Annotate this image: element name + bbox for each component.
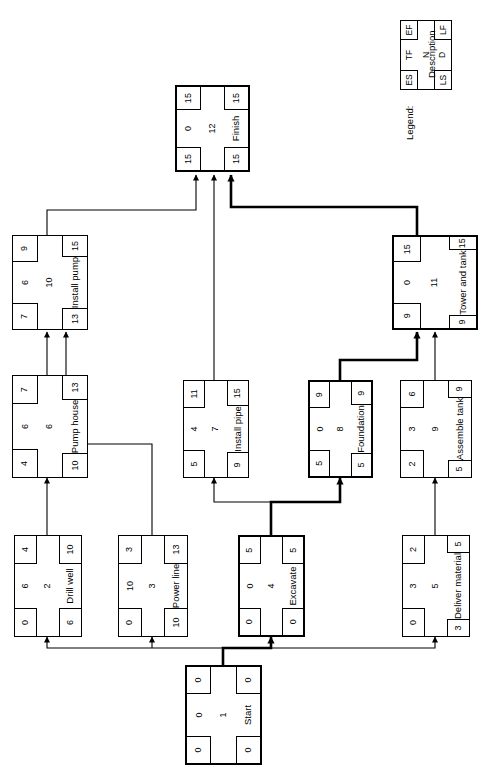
- foundation-label: Foundation: [351, 405, 371, 453]
- foundation-ls: 5: [351, 453, 371, 476]
- assemble-tank-es: 2: [401, 450, 424, 477]
- install-pipe-lf: 15: [227, 381, 248, 406]
- legend-es: ES: [401, 70, 418, 89]
- node-finish[interactable]: 15 0 15 12 15 Finish 15: [175, 85, 250, 172]
- install-pump-lf: 15: [62, 236, 87, 257]
- node-install-pipe[interactable]: 5 4 11 7 9 Install pipe 15: [183, 380, 249, 478]
- edge-start-fanout: [47, 637, 435, 648]
- finish-ls: 15: [224, 147, 248, 170]
- tower-and-tank-es: 9: [394, 303, 421, 328]
- node-deliver-material[interactable]: 0 3 2 5 3 Deliver material 5: [402, 535, 470, 637]
- start-lf: 0: [236, 667, 260, 694]
- finish-lf: 15: [224, 87, 248, 110]
- tower-and-tank-ef: 15: [394, 237, 421, 262]
- tower-and-tank-label: Tower and tank: [449, 250, 476, 314]
- edge-start-to-excavate: [223, 637, 271, 665]
- legend-tf: TF: [401, 40, 418, 70]
- excavate-tf: 0: [240, 564, 261, 607]
- node-start[interactable]: 0 0 0 1 0 Start 0: [185, 665, 262, 765]
- excavate-ef: 5: [240, 537, 261, 564]
- start-label: Start: [236, 694, 260, 736]
- power-line-tf: 10: [119, 564, 142, 608]
- deliver-material-n: 5: [425, 564, 447, 608]
- pump-house-tf: 6: [13, 404, 38, 448]
- deliver-material-tf: 3: [403, 564, 425, 608]
- node-power-line[interactable]: 0 10 3 3 10 Power line 13: [118, 535, 188, 637]
- node-install-pump[interactable]: 7 6 9 10 13 Install pump 15: [12, 235, 88, 330]
- pump-house-es: 4: [13, 449, 38, 477]
- network-diagram-canvas: 15 0 15 12 15 Finish 15 7 6 9 10 13 Inst: [0, 0, 486, 779]
- drill-well-label: Drill well: [59, 564, 81, 608]
- assemble-tank-tf: 3: [401, 408, 424, 450]
- pump-house-label: Pump house: [62, 400, 87, 453]
- start-n: 1: [211, 694, 235, 736]
- start-es: 0: [187, 736, 211, 763]
- install-pipe-es: 5: [184, 450, 205, 477]
- finish-n: 12: [201, 110, 225, 147]
- assemble-tank-n: 9: [424, 408, 447, 450]
- foundation-ef: 9: [310, 382, 330, 408]
- legend-caption: Legend:: [404, 106, 415, 140]
- tower-and-tank-n: 11: [421, 262, 448, 302]
- install-pump-tf: 6: [13, 262, 38, 303]
- node-assemble-tank[interactable]: 2 3 6 9 5 Assemble tank 9: [400, 380, 472, 478]
- start-ef: 0: [187, 667, 211, 694]
- install-pump-label: Install pump: [62, 257, 87, 308]
- excavate-n: 4: [261, 564, 282, 607]
- edge-tower-and-tank-to-finish: [231, 175, 417, 235]
- power-line-lf: 13: [164, 536, 187, 564]
- legend-ef: EF: [401, 21, 418, 40]
- deliver-material-es: 0: [403, 608, 425, 636]
- node-pump-house[interactable]: 4 6 7 6 10 Pump house 13: [12, 375, 88, 478]
- install-pump-ls: 13: [62, 308, 87, 329]
- install-pump-ef: 9: [13, 236, 38, 262]
- drill-well-ls: 6: [59, 608, 81, 636]
- foundation-n: 8: [330, 408, 350, 449]
- node-excavate[interactable]: 0 0 5 4 0 Excavate 5: [238, 535, 305, 637]
- install-pipe-label: Install pipe: [227, 406, 248, 451]
- power-line-ef: 3: [119, 536, 142, 564]
- foundation-tf: 0: [310, 408, 330, 449]
- edge-excavate-to-install-pipe: [214, 478, 271, 502]
- finish-ef: 15: [177, 87, 201, 110]
- install-pipe-n: 7: [205, 408, 226, 450]
- legend-description-label: Description: [426, 30, 437, 78]
- assemble-tank-lf: 9: [448, 381, 471, 398]
- install-pump-n: 10: [38, 262, 63, 303]
- power-line-n: 3: [142, 564, 165, 608]
- install-pipe-ef: 11: [184, 381, 205, 408]
- excavate-label: Excavate: [282, 564, 303, 607]
- edge-excavate-to-foundation: [271, 478, 340, 535]
- install-pipe-ls: 9: [227, 452, 248, 477]
- edge-install-pump-to-finish: [47, 175, 196, 235]
- node-tower-and-tank[interactable]: 9 0 15 11 9 Tower and tank 15: [392, 235, 478, 330]
- pump-house-ef: 7: [13, 376, 38, 404]
- node-drill-well[interactable]: 0 6 4 2 6 Drill well 10: [14, 535, 82, 637]
- deliver-material-ls: 3: [447, 619, 469, 636]
- foundation-es: 5: [310, 450, 330, 476]
- node-foundation[interactable]: 5 0 9 8 5 Foundation 9: [308, 380, 373, 478]
- deliver-material-ef: 2: [403, 536, 425, 564]
- finish-tf: 0: [177, 110, 201, 147]
- start-tf: 0: [187, 694, 211, 736]
- tower-and-tank-ls: 9: [449, 315, 476, 328]
- edge-foundation-to-tower-and-tank: [340, 332, 417, 380]
- excavate-ls: 0: [282, 608, 303, 635]
- assemble-tank-ls: 5: [448, 460, 471, 477]
- deliver-material-label: Deliver material: [447, 553, 469, 619]
- finish-es: 15: [177, 147, 201, 170]
- power-line-ls: 10: [164, 608, 187, 636]
- power-line-es: 0: [119, 608, 142, 636]
- start-ls: 0: [236, 736, 260, 763]
- install-pipe-tf: 4: [184, 408, 205, 450]
- drill-well-lf: 10: [59, 536, 81, 564]
- pump-house-n: 6: [38, 404, 63, 448]
- drill-well-n: 2: [37, 564, 59, 608]
- foundation-lf: 9: [351, 382, 371, 405]
- tower-and-tank-tf: 0: [394, 262, 421, 302]
- power-line-label: Power line: [164, 564, 187, 608]
- drill-well-es: 0: [15, 608, 37, 636]
- install-pump-es: 7: [13, 303, 38, 329]
- finish-label: Finish: [224, 110, 248, 147]
- excavate-lf: 5: [282, 537, 303, 564]
